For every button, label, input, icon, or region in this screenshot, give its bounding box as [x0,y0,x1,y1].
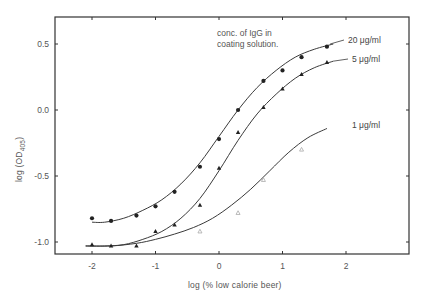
y-tick-label: 0.5 [37,39,49,49]
series-label-20: 20 μg/ml [348,35,381,45]
plot-frame [55,17,409,254]
data-point [198,165,202,169]
x-tick-label: 0 [217,261,222,271]
data-point [300,147,304,151]
data-point [280,68,284,72]
x-tick-label: -2 [88,261,96,271]
y-axis-title-close: ) [14,137,24,140]
data-point [236,108,240,112]
annotation-line-2: coating solution. [217,39,278,49]
data-point [325,60,329,64]
data-point [90,242,94,246]
label-leader [333,59,348,61]
series-label-5: 5 μg/ml [352,54,380,64]
series-label-1: 1 μg/ml [352,120,380,130]
data-point [134,244,138,248]
x-tick-label: 2 [344,261,349,271]
y-axis-title-main: log (OD [14,151,24,182]
y-tick-label: -1.0 [34,237,49,247]
y-tick-label: -0.5 [34,171,49,181]
x-axis-title: log (% low calorie beer) [188,280,282,290]
data-point [217,137,221,141]
label-leader [330,40,344,44]
data-point [153,229,157,233]
x-tick-label: -1 [152,261,160,271]
annotation-line-1: conc. of IgG in [217,28,272,38]
y-axis-ticks: 0.50.0-0.5-1.0 [34,39,409,247]
series-curve [86,128,327,246]
data-point [134,214,138,218]
data-point [299,55,303,59]
data-point [236,130,240,134]
y-axis-title-sub: 405 [19,140,26,152]
data-point [153,204,157,208]
x-axis-ticks: -2-1012 [88,17,348,271]
y-axis-title: log (OD405) [14,137,26,182]
series-curve [92,44,333,222]
data-point [198,203,202,207]
data-point [198,229,202,233]
chart: -2-1012 0.50.0-0.5-1.0 conc. of IgG in c… [0,0,422,303]
series-curves [86,40,348,246]
data-point [325,45,329,49]
data-point [90,216,94,220]
data-point [172,190,176,194]
data-point [261,79,265,83]
y-tick-label: 0.0 [37,105,49,115]
data-point [236,211,240,215]
data-point [109,219,113,223]
x-tick-label: 1 [280,261,285,271]
svg-text:log (OD405): log (OD405) [14,137,26,182]
